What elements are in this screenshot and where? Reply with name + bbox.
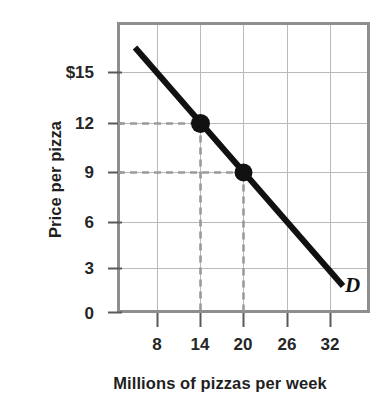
- x-tick-label-14: 14: [180, 336, 220, 353]
- y-axis-title: Price per pizza: [46, 85, 65, 275]
- data-point-20-9: [235, 164, 253, 182]
- y-tick-label-0: 0: [85, 305, 94, 322]
- y-tick-label-12: 12: [75, 115, 94, 132]
- x-tick-label-26: 26: [267, 336, 307, 353]
- y-tick-label-6: 6: [85, 214, 94, 231]
- demand-curve-figure: Price per pizza $15 12 9 6 3 0 8 14 20 2…: [0, 0, 390, 417]
- x-tick-label-20: 20: [223, 336, 263, 353]
- demand-curve-label: D: [345, 275, 360, 296]
- y-tick-label-9: 9: [85, 164, 94, 181]
- x-tick-label-8: 8: [137, 336, 177, 353]
- x-axis-ticks: [158, 313, 331, 327]
- y-tick-label-15: $15: [66, 64, 94, 81]
- x-tick-label-32: 32: [310, 336, 350, 353]
- x-axis-title: Millions of pizzas per week: [60, 374, 380, 393]
- y-tick-label-3: 3: [85, 260, 94, 277]
- data-point-14-12: [191, 114, 210, 133]
